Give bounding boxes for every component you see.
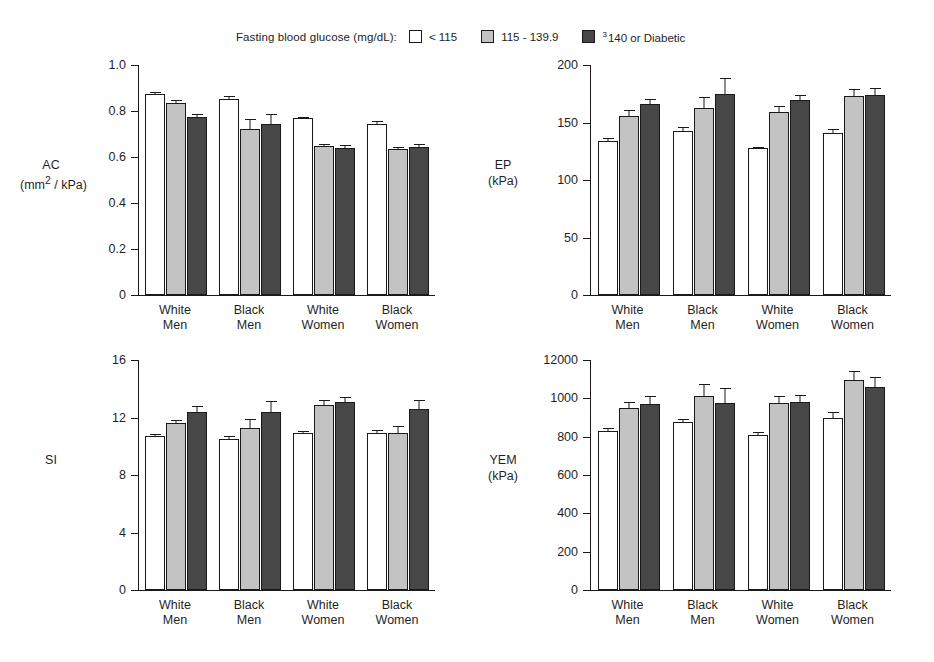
error-bar-ac-3-0 (377, 121, 378, 124)
bar-slot-yem-2-0 (748, 360, 768, 590)
axis-label-si: SI (45, 453, 57, 467)
bar-ac-1-1 (240, 129, 260, 295)
bar-groups-ep (591, 65, 891, 295)
error-bar-si-0-1 (176, 420, 177, 424)
category-line1-si-0: White (138, 598, 212, 613)
y-tick-si-2 (131, 475, 139, 476)
bar-group-ac-0 (139, 65, 213, 295)
chart-panel-ac: AC(mm2 / kPa)00.20.40.60.81.0WhiteMenBla… (20, 55, 450, 345)
legend-label-low: < 115 (429, 31, 457, 43)
bar-slot-ac-3-2 (409, 65, 429, 295)
bar-si-1-1 (240, 428, 260, 590)
bar-ep-0-2 (640, 104, 660, 295)
error-bar-ep-1-0 (682, 127, 683, 132)
y-tick-yem-1 (583, 552, 591, 553)
bar-group-ep-2 (741, 65, 816, 295)
bar-slot-yem-2-2 (790, 360, 810, 590)
bar-group-yem-0 (591, 360, 666, 590)
bar-slot-ep-3-0 (823, 65, 843, 295)
plot-area-si: 0481216 (138, 360, 435, 591)
bar-ep-3-1 (844, 96, 864, 295)
category-line1-yem-1: Black (665, 598, 740, 613)
bar-slot-yem-3-1 (844, 360, 864, 590)
bar-yem-3-1 (844, 380, 864, 590)
error-bar-si-2-1 (324, 400, 325, 406)
bar-slot-ac-1-0 (219, 65, 239, 295)
category-line2-ep-3: Women (815, 318, 890, 333)
error-bar-yem-2-1 (778, 396, 779, 405)
bar-groups-ac (139, 65, 435, 295)
error-bar-yem-3-0 (832, 412, 833, 419)
category-label-ep-3: BlackWomen (815, 303, 890, 333)
bar-slot-yem-3-0 (823, 360, 843, 590)
error-bar-yem-0-1 (628, 402, 629, 409)
error-bar-ep-2-2 (799, 95, 800, 101)
error-bar-ac-0-0 (155, 92, 156, 95)
category-line1-ac-2: White (286, 303, 360, 318)
bar-ep-3-0 (823, 133, 843, 295)
bar-slot-ac-3-0 (367, 65, 387, 295)
bar-ep-2-0 (748, 148, 768, 295)
error-bar-ep-3-1 (853, 89, 854, 97)
category-line1-ac-3: Black (360, 303, 434, 318)
bar-slot-yem-2-1 (769, 360, 789, 590)
bar-slot-si-1-0 (219, 360, 239, 590)
bar-yem-2-2 (790, 402, 810, 590)
bar-ac-0-1 (166, 103, 186, 295)
bar-slot-ac-2-2 (335, 65, 355, 295)
bar-yem-2-0 (748, 435, 768, 590)
error-bar-ep-1-2 (724, 78, 725, 95)
y-tick-si-3 (131, 418, 139, 419)
y-tick-label-ep-0: 0 (571, 288, 578, 302)
bar-yem-1-2 (715, 403, 735, 590)
y-tick-label-si-1: 4 (119, 526, 126, 540)
y-tick-label-ac-2: 0.4 (109, 196, 126, 210)
y-tick-label-ep-3: 150 (557, 116, 578, 130)
y-tick-label-yem-0: 0 (571, 583, 578, 597)
y-tick-si-0 (131, 590, 139, 591)
y-tick-label-ac-5: 1.0 (109, 58, 126, 72)
bar-groups-si (139, 360, 435, 590)
legend: Fasting blood glucose (mg/dL): < 115 115… (236, 30, 685, 44)
y-tick-ac-5 (131, 65, 139, 66)
category-line2-yem-1: Men (665, 613, 740, 628)
y-tick-label-ep-2: 100 (557, 173, 578, 187)
bar-ep-1-1 (694, 108, 714, 295)
category-line1-ep-0: White (590, 303, 665, 318)
error-bar-si-0-0 (155, 434, 156, 437)
bar-ac-0-2 (187, 117, 207, 295)
error-bar-yem-1-0 (682, 419, 683, 424)
bar-ac-0-0 (145, 94, 165, 295)
bar-slot-ep-2-2 (790, 65, 810, 295)
error-bar-si-1-0 (229, 436, 230, 440)
bar-slot-si-2-2 (335, 360, 355, 590)
category-label-yem-2: WhiteWomen (740, 598, 815, 628)
y-tick-label-yem-1: 200 (557, 545, 578, 559)
category-line1-ac-0: White (138, 303, 212, 318)
category-label-si-0: WhiteMen (138, 598, 212, 628)
category-line1-ep-3: Black (815, 303, 890, 318)
legend-prefix-high: 3 (602, 30, 606, 39)
bar-yem-1-0 (673, 422, 693, 590)
bar-si-2-1 (314, 405, 334, 590)
y-tick-label-ac-1: 0.2 (109, 242, 126, 256)
legend-label-high-text: 140 or Diabetic (608, 32, 685, 44)
y-tick-ac-2 (131, 203, 139, 204)
bar-si-0-1 (166, 423, 186, 590)
bar-slot-ep-0-2 (640, 65, 660, 295)
axis-title-ep: EP(kPa) (472, 157, 534, 189)
y-tick-si-1 (131, 533, 139, 534)
plot-area-ep: 050100150200 (590, 65, 891, 296)
y-tick-yem-0 (583, 590, 591, 591)
y-tick-label-si-4: 16 (112, 353, 126, 367)
bar-ac-1-2 (261, 124, 281, 295)
y-tick-yem-2 (583, 513, 591, 514)
y-tick-label-si-0: 0 (119, 583, 126, 597)
y-tick-label-ac-0: 0 (119, 288, 126, 302)
category-line2-yem-3: Women (815, 613, 890, 628)
bar-slot-si-0-1 (166, 360, 186, 590)
error-bar-yem-1-2 (724, 388, 725, 404)
y-tick-ac-0 (131, 295, 139, 296)
y-tick-ep-2 (583, 180, 591, 181)
category-label-ac-3: BlackWomen (360, 303, 434, 333)
